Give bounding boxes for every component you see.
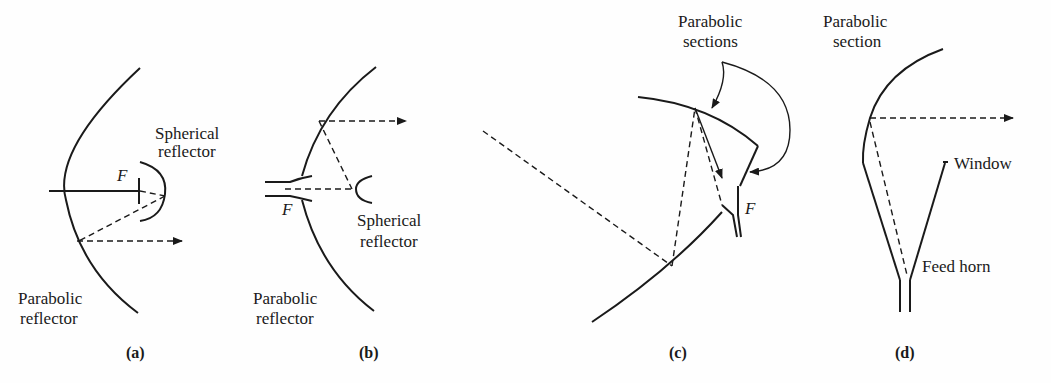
- focus-label-a: F: [117, 167, 127, 185]
- panel-a-drawing: [49, 68, 182, 313]
- parabolic-section-c-upper: [638, 97, 758, 146]
- parabolic-section-c-lower: [592, 212, 722, 322]
- label-parabolic-b-2: reflector: [256, 310, 314, 328]
- label-spherical-a-2: reflector: [158, 143, 216, 161]
- label-parabolic-section-2: section: [833, 33, 881, 51]
- panel-c-drawing: [483, 62, 790, 322]
- focus-label-c: F: [745, 200, 755, 218]
- label-spherical-b-1: Spherical: [357, 212, 421, 230]
- label-parabolic-sections-1: Parabolic: [678, 13, 742, 31]
- panel-b-drawing: [265, 67, 406, 311]
- spherical-reflector-b: [356, 176, 372, 203]
- focus-label-b: F: [282, 201, 292, 219]
- label-parabolic-section-1: Parabolic: [823, 13, 887, 31]
- label-parabolic-b-1: Parabolic: [253, 290, 317, 308]
- label-window: Window: [954, 155, 1012, 173]
- label-parabolic-sections-2: sections: [683, 33, 738, 51]
- caption-a: (a): [126, 344, 145, 362]
- label-spherical-a-1: Spherical: [155, 125, 219, 143]
- parabolic-section-d: [863, 49, 943, 163]
- caption-d: (d): [895, 344, 915, 362]
- label-spherical-b-2: reflector: [360, 233, 418, 251]
- label-parabolic-a-2: reflector: [20, 310, 78, 328]
- label-feed-horn: Feed horn: [922, 258, 990, 276]
- diagram-stage: Spherical reflector F Parabolic reflecto…: [0, 0, 1051, 383]
- caption-b: (b): [359, 344, 379, 362]
- caption-c: (c): [669, 344, 687, 362]
- label-parabolic-a-1: Parabolic: [18, 290, 82, 308]
- reflector-diagrams: [0, 0, 1051, 383]
